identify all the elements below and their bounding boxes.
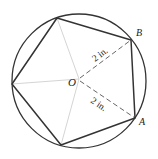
radius-ob [80,40,131,78]
spoke-bottom [61,79,79,145]
pentagon-diagram: O B A 2 in. 2 in. [0,0,158,159]
vertex-label-b: B [136,27,142,38]
measure-ob: 2 in. [90,45,110,63]
circumcircle [12,14,146,148]
vertex-label-a: A [138,116,146,127]
radius-oa [80,81,135,118]
measure-oa: 2 in. [89,95,109,113]
center-label-o: O [68,76,76,88]
diagram-svg: O B A 2 in. 2 in. [0,0,158,159]
spoke-top [57,18,79,79]
